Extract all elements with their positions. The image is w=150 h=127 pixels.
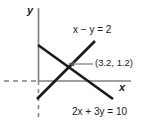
- intersection-point-label: (3.2, 1.2): [95, 58, 133, 68]
- equation-label-line-1: x − y = 2: [73, 25, 111, 35]
- line-2x-plus-3y-equals-10: [38, 45, 113, 99]
- graph-figure: y x x − y = 2 2x + 3y = 10 (3.2, 1.2): [0, 0, 150, 127]
- equation-label-line-2: 2x + 3y = 10: [72, 107, 127, 117]
- y-axis-label: y: [27, 5, 33, 16]
- x-axis-label: x: [119, 82, 125, 93]
